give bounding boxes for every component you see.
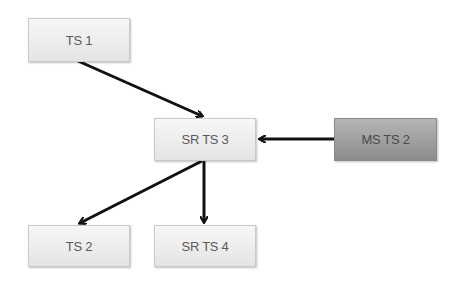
node-ts1: TS 1	[28, 18, 130, 62]
node-label: SR TS 3	[182, 132, 229, 147]
edge-ts1-to-srts3	[78, 61, 202, 116]
node-label: TS 1	[66, 33, 92, 48]
edge-srts3-to-ts2	[80, 161, 202, 223]
node-sr-ts3: SR TS 3	[154, 118, 256, 161]
node-ts2: TS 2	[28, 225, 130, 267]
node-label: TS 2	[66, 239, 92, 254]
node-ms-ts2: MS TS 2	[334, 118, 437, 161]
node-label: MS TS 2	[361, 132, 409, 147]
node-sr-ts4: SR TS 4	[154, 225, 256, 267]
node-label: SR TS 4	[182, 239, 229, 254]
